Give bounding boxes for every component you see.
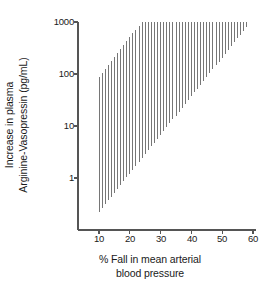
x-axis-title-line-1: % Fall in mean arterial — [40, 252, 260, 266]
plot-area — [0, 0, 273, 293]
bar-series — [99, 22, 247, 212]
x-axis-title-line-2: blood pressure — [40, 266, 260, 280]
chart-figure: Increase in plasma Arginine-Vasopressin … — [0, 0, 273, 293]
x-axis-title: % Fall in mean arterial blood pressure — [40, 252, 260, 280]
